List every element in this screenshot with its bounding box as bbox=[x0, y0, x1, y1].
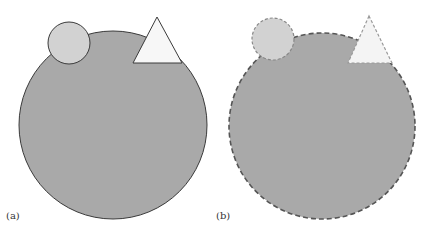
panel-label-b: (b) bbox=[216, 210, 230, 221]
panel-a bbox=[19, 17, 207, 219]
figure-canvas bbox=[0, 0, 434, 237]
small-circle-a bbox=[48, 22, 90, 64]
panel-b bbox=[229, 16, 415, 219]
panel-label-a: (a) bbox=[6, 210, 20, 221]
small-circle-b bbox=[252, 18, 294, 60]
